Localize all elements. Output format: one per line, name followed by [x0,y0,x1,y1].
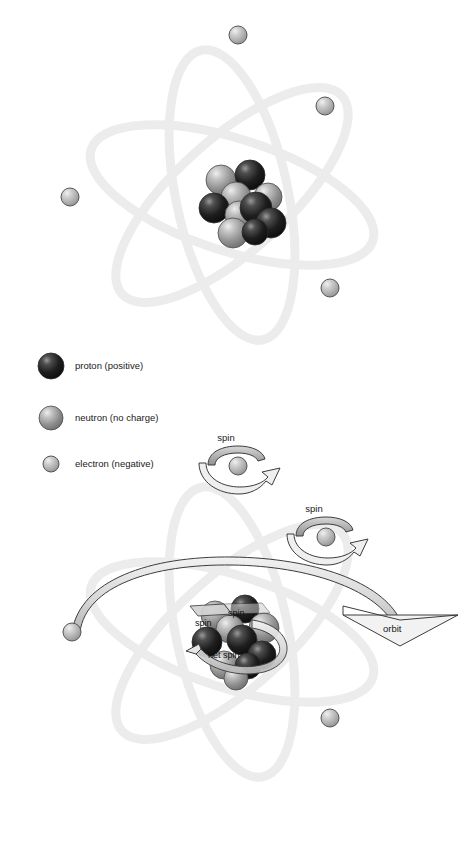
diagram-canvas: proton (positive) neutron (no charge) el… [0,0,461,846]
proton-sphere-icon [38,353,64,379]
electron-sphere [63,623,81,641]
legend-item-proton: proton (positive) [38,353,143,379]
electron-sphere [321,279,339,297]
electron-sphere [229,457,247,475]
electron-sphere [321,709,339,727]
nucleus-proton [242,219,268,245]
legend-item-neutron: neutron (no charge) [39,406,158,430]
legend: proton (positive) neutron (no charge) el… [38,353,158,472]
spin-annotation-right: spin [287,503,368,565]
nucleus-proton [199,193,229,223]
legend-item-electron: electron (negative) [43,456,154,472]
electron-sphere-icon [43,456,59,472]
electron-sphere [229,26,247,44]
net-spin-label: net spin [208,650,240,660]
nucleus-spin-label-b: spin [228,608,245,618]
neutron-sphere-icon [39,406,63,430]
bottom-atom-group: orbit spin spin [63,432,458,788]
orbit-label: orbit [383,623,402,634]
legend-label-electron: electron (negative) [75,458,154,469]
legend-label-proton: proton (positive) [75,360,143,371]
electron-sphere [316,97,334,115]
spin-label-top: spin [217,432,234,443]
legend-label-neutron: neutron (no charge) [75,412,158,423]
top-atom-nucleus [199,160,286,248]
electron-sphere [317,528,335,546]
spin-annotation-top: spin [199,432,280,494]
nucleus-spin-label-a: spin [195,618,212,628]
atom-diagram-svg: proton (positive) neutron (no charge) el… [0,0,461,846]
top-atom-group [61,26,390,351]
electron-sphere [61,188,79,206]
spin-label-right: spin [305,503,322,514]
